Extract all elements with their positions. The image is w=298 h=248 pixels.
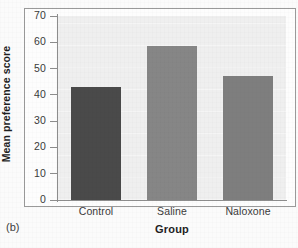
y-axis-tick [50,173,57,174]
x-axis-tick-label: Naloxone [210,206,286,217]
y-axis-tick-label: 40 [22,89,46,100]
x-axis-tick-label: Saline [134,206,210,217]
y-axis-tick [50,42,57,43]
y-axis-tick-label: 10 [22,168,46,179]
panel-label: (b) [6,221,19,233]
y-axis-tick [50,94,57,95]
x-axis-tick-label: Control [58,206,134,217]
y-axis-tick-label: 20 [22,141,46,152]
bar-naloxone [223,76,274,200]
y-axis-line [57,14,58,202]
y-axis-tick-label: 70 [22,10,46,21]
bar-control [71,87,122,200]
figure-panel: 706050403020100 ControlSalineNaloxone Me… [0,0,298,248]
y-axis-tick [50,68,57,69]
y-axis-tick-label: 60 [22,36,46,47]
x-axis-line [57,200,287,201]
y-axis-tick [50,147,57,148]
bar-saline [147,46,198,200]
y-axis-tick-label: 30 [22,115,46,126]
y-axis-tick-label: 50 [22,63,46,74]
y-axis-tick [50,121,57,122]
y-axis-tick-label: 0 [22,194,46,205]
y-axis-tick [50,16,57,17]
y-axis-tick [50,200,57,201]
y-axis-title: Mean preference score [0,46,12,163]
x-axis-title: Group [58,223,286,235]
